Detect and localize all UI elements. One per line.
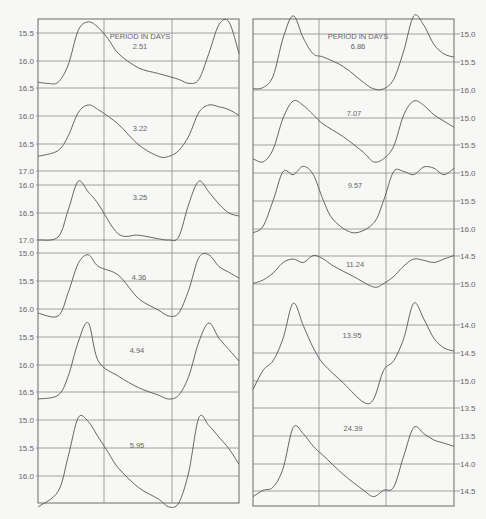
light-curve-6-86 [253, 15, 454, 90]
y-tick-label: 15.0 [460, 169, 476, 178]
period-value-label: 7.07 [347, 109, 362, 118]
left-panel-grid: 15.516.016.516.016.517.016.016.517.015.0… [18, 19, 239, 503]
light-curve-figure: 15.516.016.516.016.517.016.016.517.015.0… [0, 0, 486, 519]
light-curves [38, 15, 454, 508]
period-value-label: 24.39 [344, 424, 363, 433]
panel-labels: PERIOD IN DAYS2.513.223.254.364.945.95PE… [110, 32, 388, 450]
period-value-label: 5.95 [130, 441, 145, 450]
y-tick-label: 15.5 [460, 141, 476, 150]
light-curve-4-94 [38, 323, 239, 399]
y-tick-label: 15.0 [460, 30, 476, 39]
y-tick-label: 16.0 [18, 361, 34, 370]
light-curve-9-57 [253, 166, 454, 233]
y-tick-label: 15.0 [460, 114, 476, 123]
y-tick-label: 16.5 [18, 209, 34, 218]
y-tick-label: 15.5 [18, 29, 34, 38]
y-tick-label: 16.0 [18, 181, 34, 190]
y-tick-label: 14.0 [460, 321, 476, 330]
y-tick-label: 17.0 [18, 236, 34, 245]
light-curve-4-36 [38, 253, 239, 317]
y-tick-label: 14.5 [460, 349, 476, 358]
figure-caption-cropped [60, 511, 460, 519]
y-tick-label: 14.5 [460, 487, 476, 496]
y-tick-label: 15.0 [18, 249, 34, 258]
period-value-label: 4.94 [130, 346, 145, 355]
y-tick-label: 15.5 [18, 444, 34, 453]
y-tick-label: 16.0 [18, 57, 34, 66]
period-value-label: 2.51 [133, 42, 148, 51]
y-tick-label: 16.0 [460, 225, 476, 234]
y-tick-label: 15.5 [460, 58, 476, 67]
period-header-label: PERIOD IN DAYS [328, 32, 388, 41]
y-tick-label: 15.5 [18, 333, 34, 342]
y-tick-label: 17.0 [18, 167, 34, 176]
panel-frame [38, 19, 239, 503]
y-tick-label: 15.5 [18, 277, 34, 286]
light-curve-5-95 [38, 415, 239, 507]
period-value-label: 13.95 [343, 331, 362, 340]
y-tick-label: 15.5 [460, 197, 476, 206]
y-tick-label: 16.5 [18, 388, 34, 397]
y-tick-label: 14.0 [460, 460, 476, 469]
y-tick-label: 16.0 [18, 112, 34, 121]
period-value-label: 3.25 [133, 193, 148, 202]
y-tick-label: 13.5 [460, 432, 476, 441]
y-tick-label: 15.0 [18, 416, 34, 425]
y-tick-label: 16.0 [18, 305, 34, 314]
period-value-label: 3.22 [133, 124, 148, 133]
light-curve-3-25 [38, 181, 239, 241]
y-tick-label: 13.5 [460, 404, 476, 413]
light-curve-2-51 [38, 19, 239, 84]
y-tick-label: 15.0 [460, 280, 476, 289]
right-panel-grid: 15.015.516.015.015.515.015.516.014.515.0… [253, 19, 476, 506]
period-header-label: PERIOD IN DAYS [110, 32, 170, 41]
period-value-label: 11.24 [346, 260, 364, 269]
y-tick-label: 16.5 [18, 140, 34, 149]
period-value-label: 9.57 [348, 181, 363, 190]
y-tick-label: 14.5 [460, 252, 476, 261]
y-tick-label: 16.0 [18, 472, 34, 481]
y-tick-label: 16.0 [460, 86, 476, 95]
y-tick-label: 15.0 [460, 377, 476, 386]
period-value-label: 4.36 [132, 273, 147, 282]
y-tick-label: 16.5 [18, 84, 34, 93]
period-value-label: 6.86 [351, 42, 366, 51]
